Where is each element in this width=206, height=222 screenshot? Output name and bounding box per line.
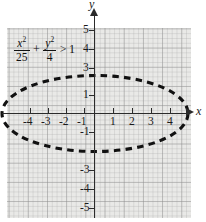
x-tick-mark bbox=[170, 108, 171, 114]
x-tick-label-3: 3 bbox=[148, 116, 154, 128]
x-tick-mark bbox=[66, 108, 67, 114]
y-tick-label-neg5: -5 bbox=[80, 202, 90, 214]
fraction-x-term: x2 25 bbox=[14, 36, 30, 64]
fraction-x-numerator: x2 bbox=[15, 36, 28, 50]
x-tick-mark bbox=[30, 108, 31, 114]
right-hand-side: 1 bbox=[69, 42, 75, 57]
x-tick-mark bbox=[132, 108, 133, 114]
y-tick-mark bbox=[89, 95, 95, 96]
x-tick-mark bbox=[48, 108, 49, 114]
x-tick-label-2: 2 bbox=[129, 116, 135, 128]
y-tick-label-5: 5 bbox=[83, 24, 89, 36]
x-axis-arrow-icon bbox=[186, 108, 194, 116]
x-tick-label-1: 1 bbox=[110, 116, 116, 128]
x-tick-label-neg4: -4 bbox=[23, 116, 33, 128]
ellipse-inequality-figure: x y -4 -3 -2 -1 1 2 3 4 5 4 3 1 -1 -3 -4… bbox=[0, 0, 206, 222]
greater-than-operator: > bbox=[60, 42, 67, 57]
y-tick-label-neg1: -1 bbox=[80, 126, 90, 138]
x-tick-mark bbox=[84, 108, 85, 114]
x-tick-mark bbox=[151, 108, 152, 114]
fraction-x-denominator: 25 bbox=[14, 52, 30, 64]
x-tick-label-neg3: -3 bbox=[41, 116, 51, 128]
y-axis-label: y bbox=[89, 0, 94, 12]
plus-operator: + bbox=[33, 42, 40, 57]
x-tick-mark bbox=[113, 108, 114, 114]
y-tick-label-neg4: -4 bbox=[80, 183, 90, 195]
y-tick-label-3: 3 bbox=[83, 62, 89, 74]
y-tick-label-1: 1 bbox=[83, 89, 89, 101]
fraction-y-term: y2 4 bbox=[43, 36, 56, 64]
y-tick-mark bbox=[89, 49, 95, 50]
inequality-expression: x2 25 + y2 4 > 1 bbox=[13, 36, 75, 64]
y-tick-mark bbox=[89, 30, 95, 31]
x-tick-label-4: 4 bbox=[167, 116, 173, 128]
x-tick-label-neg2: -2 bbox=[59, 116, 69, 128]
y-tick-mark bbox=[89, 68, 95, 69]
fraction-y-denominator: 4 bbox=[45, 52, 55, 64]
y-tick-label-4: 4 bbox=[83, 43, 89, 55]
fraction-y-numerator: y2 bbox=[43, 36, 56, 50]
y-tick-label-neg3: -3 bbox=[80, 164, 90, 176]
x-axis-label: x bbox=[196, 104, 201, 119]
